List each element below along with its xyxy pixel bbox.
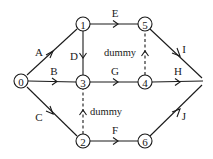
label-dummy-top: dummy [104, 47, 137, 58]
node-3: 3 [76, 75, 90, 89]
arrow-dummy-bottom-icon [80, 110, 87, 115]
node-0: 0 [14, 74, 28, 88]
label-C: C [35, 111, 42, 123]
label-E: E [112, 7, 119, 19]
label-J: J [182, 110, 187, 122]
edge-B [28, 81, 76, 82]
node-2-label: 2 [80, 136, 86, 148]
label-G: G [111, 65, 119, 77]
node-4-label: 4 [142, 77, 148, 89]
node-0-label: 0 [18, 76, 24, 88]
label-D: D [70, 50, 78, 62]
label-B: B [50, 65, 57, 77]
node-4: 4 [138, 75, 152, 89]
network-diagram: A B C D E F G H I J dummy dummy 0 1 [0, 0, 213, 159]
node-6-label: 6 [142, 136, 148, 148]
label-I: I [182, 43, 186, 55]
node-2: 2 [76, 134, 90, 148]
arrow-I-icon [172, 48, 180, 56]
node-3-label: 3 [80, 77, 86, 89]
node-6: 6 [138, 134, 152, 148]
node-1-label: 1 [80, 19, 86, 31]
edge-H [152, 81, 203, 82]
node-5: 5 [138, 17, 152, 31]
label-F: F [112, 124, 118, 136]
label-A: A [35, 46, 43, 58]
label-dummy-bottom: dummy [90, 106, 123, 117]
label-H: H [174, 65, 182, 77]
arrow-dummy-top-icon [142, 51, 149, 56]
node-5-label: 5 [142, 19, 148, 31]
node-1: 1 [76, 17, 90, 31]
